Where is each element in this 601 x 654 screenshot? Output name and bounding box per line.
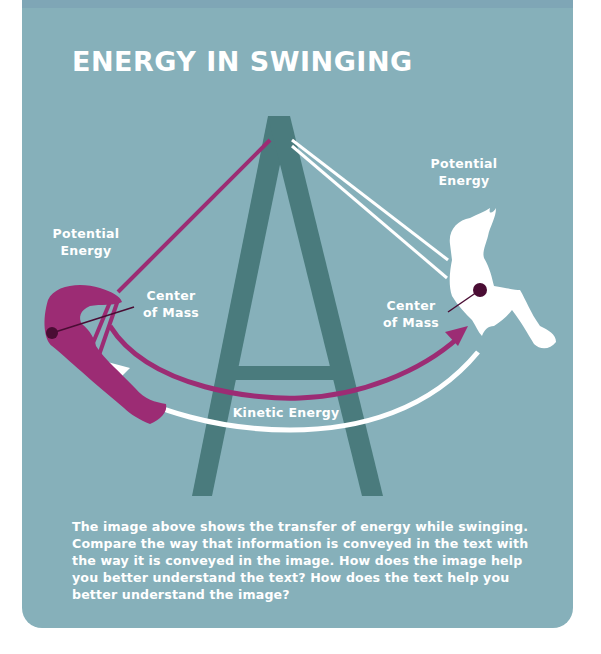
right-potential-energy-label: Potential Energy <box>424 155 504 189</box>
left-center-of-mass-label: Center of Mass <box>136 287 206 321</box>
kinetic-energy-label: Kinetic Energy <box>226 404 346 421</box>
swing-frame <box>192 116 383 496</box>
right-center-of-mass-dot <box>473 283 487 297</box>
left-center-of-mass-dot <box>46 327 58 339</box>
left-potential-energy-label: Potential Energy <box>46 225 126 259</box>
caption-text: The image above shows the transfer of en… <box>72 518 552 603</box>
right-center-of-mass-label: Center of Mass <box>376 297 446 331</box>
magenta-arc-arrow <box>110 326 468 398</box>
